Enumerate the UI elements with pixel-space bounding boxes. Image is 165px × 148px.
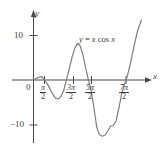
x-tick-label-5pi-over-2: 5π 2	[85, 84, 95, 102]
y-tick-label-minus-10: −10	[10, 120, 24, 129]
y-tick-label-0: 0	[26, 83, 31, 92]
curve-equation-label: y = x cos x	[79, 35, 115, 44]
y-axis	[31, 10, 36, 143]
y-tick-label-10: 10	[14, 31, 23, 40]
equation-rhs-argument: x	[111, 34, 115, 44]
x-tick-label-pi-over-2: π 2	[40, 84, 46, 102]
y-axis-label: y	[35, 9, 39, 18]
x-tick-label-3pi-over-2: 3π 2	[66, 84, 76, 102]
x-axis-label: x	[153, 72, 157, 81]
x-tick-denominator: 2	[119, 93, 129, 101]
equation-rhs-var: x	[92, 34, 96, 44]
plot-canvas	[0, 0, 165, 148]
equation-rhs-function: cos	[98, 34, 109, 44]
x-tick-denominator: 2	[40, 93, 46, 101]
x-tick-denominator: 2	[85, 93, 95, 101]
x-tick-label-7pi-over-2: 7π 2	[119, 84, 129, 102]
equation-equals: =	[85, 34, 90, 44]
function-graph-figure: y x 10 0 −10 π 2 3π 2 5π 2 7π 2 y = x co…	[0, 0, 165, 148]
x-tick-denominator: 2	[66, 93, 76, 101]
